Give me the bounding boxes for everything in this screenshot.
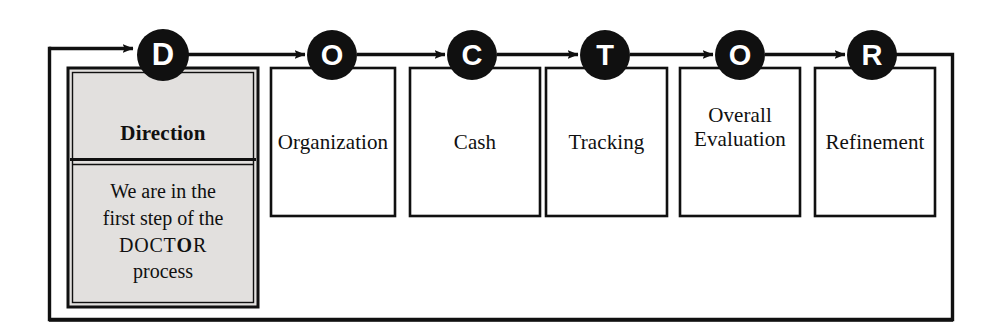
step-label-overall-evaluation-line-2: Evaluation bbox=[673, 128, 807, 152]
acronym-emphasis: O bbox=[177, 234, 193, 256]
step-label-organization: Organization bbox=[264, 131, 402, 155]
step-detail-line-4: process bbox=[68, 258, 258, 285]
acronym-prefix: DOCT bbox=[119, 234, 177, 256]
letter-circle-t-label: T bbox=[575, 39, 635, 71]
step-label-tracking: Tracking bbox=[544, 131, 669, 155]
acronym-suffix: R bbox=[193, 234, 207, 256]
letter-circle-o1-label: O bbox=[302, 39, 362, 71]
step-label-overall-evaluation-line-1: Overall bbox=[673, 104, 807, 128]
step-label-direction: Direction bbox=[68, 122, 258, 146]
step-detail-direction: We are in the first step of the DOCTOR p… bbox=[68, 178, 258, 285]
doctor-process-diagram: D O C T O R Direction We are in the firs… bbox=[0, 0, 1004, 335]
letter-circle-o2-label: O bbox=[710, 39, 770, 71]
step-detail-line-2: first step of the bbox=[68, 205, 258, 232]
step-label-cash: Cash bbox=[410, 131, 540, 155]
step-label-refinement: Refinement bbox=[812, 131, 938, 155]
step-label-overall-evaluation: Overall Evaluation bbox=[673, 104, 807, 151]
step-detail-line-1: We are in the bbox=[68, 178, 258, 205]
step-detail-line-3-acronym: DOCTOR bbox=[68, 232, 258, 259]
letter-circle-d-label: D bbox=[133, 38, 193, 72]
letter-circle-c-label: C bbox=[442, 39, 502, 71]
letter-circle-r-label: R bbox=[842, 39, 902, 71]
